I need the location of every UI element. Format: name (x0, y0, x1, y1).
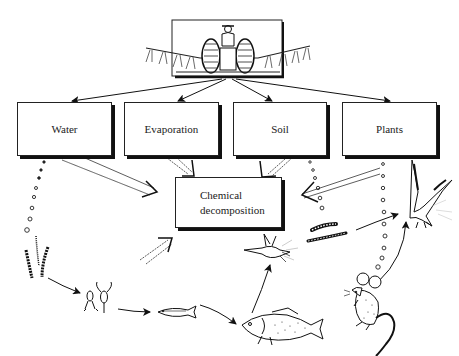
soil-box: Soil (233, 102, 327, 156)
earthworm-icon (308, 224, 346, 241)
aquatic-plant-icon (26, 236, 48, 278)
tractor-sprayer-icon (146, 20, 310, 77)
large-fish-icon (242, 308, 323, 345)
water-label: Water (52, 122, 78, 137)
water-box: Water (17, 102, 112, 156)
mouse-icon (344, 273, 394, 356)
chemical-decomposition-box: Chemical decomposition (175, 177, 282, 228)
fishing-bird-icon (244, 234, 298, 262)
source-arrows (72, 79, 390, 101)
plants-label: Plants (376, 122, 403, 137)
small-fish-icon (158, 306, 196, 318)
soil-label: Soil (271, 122, 289, 137)
evaporation-box: Evaporation (124, 102, 219, 156)
decomposition-line2: decomposition (200, 203, 265, 218)
food-chain-arrows (48, 214, 406, 324)
zooplankton-icon (84, 282, 112, 313)
pesticide-pathway-diagram: Water Evaporation Soil Plants Chemical d… (0, 0, 459, 356)
decomposition-line1: Chemical (200, 188, 265, 203)
plants-box: Plants (342, 102, 437, 156)
evaporation-label: Evaporation (145, 122, 199, 137)
bird-of-prey-icon (410, 160, 452, 228)
